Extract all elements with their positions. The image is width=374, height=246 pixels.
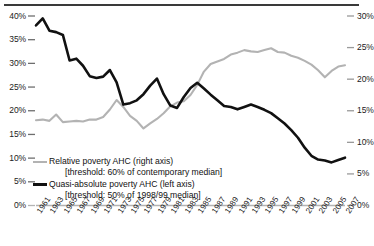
legend-line-swatch-black-icon <box>33 183 47 186</box>
right-axis-ticks <box>347 16 354 206</box>
legend-item-quasi: Quasi-absolute poverty AHC (left axis) <box>46 179 222 190</box>
left-axis-tick-label: 30% <box>0 58 26 68</box>
right-axis-tick-label: 25% <box>357 42 374 52</box>
left-axis-ticks <box>28 16 35 206</box>
legend-item-relative: Relative poverty AHC (right axis) <box>46 156 222 167</box>
left-axis-tick-label: 35% <box>0 34 26 44</box>
left-axis-tick-label: 20% <box>0 105 26 115</box>
right-axis-tick-label: 10% <box>357 137 374 147</box>
left-axis-tick-label: 40% <box>0 11 26 21</box>
chart-legend: Relative poverty AHC (right axis) [thres… <box>46 156 222 202</box>
left-axis-tick-label: 5% <box>0 176 26 186</box>
legend-note-quasi: [threshold: 50% of 1998/99 median] <box>46 190 222 201</box>
left-axis-tick-label: 15% <box>0 129 26 139</box>
quasi-absolute-poverty-line <box>36 18 345 162</box>
left-axis-tick-label: 0% <box>0 200 26 210</box>
legend-line-swatch-grey-icon <box>33 161 47 163</box>
right-axis-tick-label: 30% <box>357 11 374 21</box>
right-axis-tick-label: 20% <box>357 74 374 84</box>
left-axis-tick-label: 10% <box>0 153 26 163</box>
right-axis-tick-label: 15% <box>357 105 374 115</box>
legend-note-relative: [threshold: 60% of contemporary median] <box>46 167 222 178</box>
legend-threshold-relative: [threshold: 60% of contemporary median] <box>62 167 222 178</box>
legend-label-relative: Relative poverty AHC (right axis) <box>46 156 173 167</box>
legend-threshold-quasi: [threshold: 50% of 1998/99 median] <box>62 190 201 201</box>
right-axis-tick-label: 5% <box>357 168 369 178</box>
legend-label-quasi: Quasi-absolute poverty AHC (left axis) <box>46 179 195 190</box>
left-axis-tick-label: 25% <box>0 82 26 92</box>
